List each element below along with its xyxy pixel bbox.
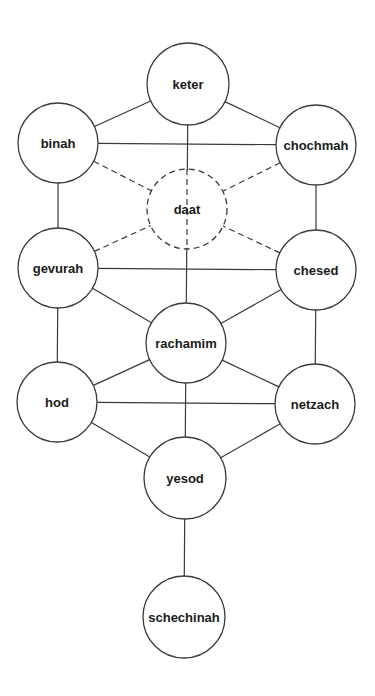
edge-gevurah-chesed — [98, 268, 276, 269]
edge-rachamim-hod — [93, 360, 149, 386]
node-chesed: chesed — [276, 230, 356, 310]
edge-keter-chochmah — [225, 102, 280, 128]
node-label: keter — [172, 77, 203, 92]
node-label: schechinah — [148, 610, 220, 625]
edge-hod-netzach — [97, 402, 275, 403]
edge-chochmah-daat — [223, 163, 280, 191]
node-label: hod — [45, 395, 69, 410]
node-label: yesod — [166, 471, 204, 486]
edge-chesed-rachamim — [221, 290, 281, 324]
edge-hod-yesod — [91, 422, 149, 457]
nodes-layer: keterbinahchochmahdaatgevurahchesedracha… — [17, 43, 356, 658]
node-label: gevurah — [33, 261, 84, 276]
edge-keter-binah — [94, 101, 150, 127]
node-label: chochmah — [283, 138, 348, 153]
edge-chesed-daat — [223, 226, 280, 253]
edge-gevurah-rachamim — [93, 288, 152, 323]
edge-netzach-yesod — [221, 424, 281, 458]
node-gevurah: gevurah — [18, 228, 98, 308]
node-label: netzach — [291, 397, 339, 412]
node-binah: binah — [18, 103, 98, 183]
node-schechinah: schechinah — [143, 576, 225, 658]
node-label: daat — [174, 202, 201, 217]
node-chochmah: chochmah — [276, 105, 356, 185]
edge-binah-chochmah — [98, 143, 276, 144]
tree-diagram: keterbinahchochmahdaatgevurahchesedracha… — [0, 0, 375, 696]
node-yesod: yesod — [144, 437, 226, 519]
node-label: rachamim — [155, 336, 216, 351]
node-hod: hod — [17, 362, 97, 442]
node-label: chesed — [294, 263, 339, 278]
node-label: binah — [41, 136, 76, 151]
node-rachamim: rachamim — [146, 303, 226, 383]
edge-binah-daat — [94, 161, 152, 191]
edge-gevurah-daat — [94, 226, 150, 252]
edge-rachamim-netzach — [222, 360, 279, 387]
node-keter: keter — [147, 43, 229, 125]
node-netzach: netzach — [275, 364, 355, 444]
